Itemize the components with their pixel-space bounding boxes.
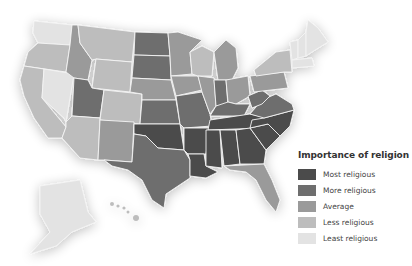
state-VT bbox=[290, 40, 298, 60]
legend-title: Importance of religion bbox=[298, 150, 412, 160]
state-FL bbox=[224, 164, 280, 212]
state-NY bbox=[254, 50, 292, 76]
legend-item-average: Average bbox=[298, 198, 412, 214]
legend-swatch bbox=[298, 185, 316, 196]
legend-item-most: Most religious bbox=[298, 166, 412, 182]
legend-label: Less religious bbox=[323, 218, 374, 227]
hawaii-island bbox=[116, 204, 119, 207]
legend-label: Average bbox=[323, 202, 354, 211]
state-AK bbox=[30, 180, 96, 254]
state-NM bbox=[98, 120, 134, 162]
state-CO bbox=[100, 90, 142, 124]
legend-swatch bbox=[298, 201, 316, 212]
state-WA bbox=[33, 21, 72, 45]
state-ME bbox=[306, 20, 328, 56]
legend-label: Most religious bbox=[323, 170, 375, 179]
state-WY bbox=[92, 59, 132, 92]
state-MI bbox=[214, 40, 238, 80]
legend-swatch bbox=[298, 233, 316, 244]
hawaii-island bbox=[110, 202, 114, 206]
legend-swatch bbox=[298, 217, 316, 228]
state-IN bbox=[214, 80, 228, 106]
state-NH bbox=[298, 32, 306, 58]
state-OH bbox=[226, 76, 250, 104]
state-AZ bbox=[62, 116, 100, 160]
legend: Importance of religion Most religious Mo… bbox=[298, 150, 412, 246]
state-SD bbox=[132, 55, 171, 80]
state-MA bbox=[292, 58, 314, 68]
legend-label: Least religious bbox=[323, 234, 377, 243]
hawaii-island bbox=[127, 211, 130, 214]
legend-label: More religious bbox=[323, 186, 376, 195]
hawaii-island bbox=[122, 206, 125, 209]
state-ND bbox=[134, 32, 170, 56]
state-HI bbox=[110, 202, 139, 221]
legend-item-more: More religious bbox=[298, 182, 412, 198]
legend-swatch bbox=[298, 169, 316, 180]
state-KS bbox=[140, 100, 180, 124]
state-MS bbox=[206, 130, 222, 168]
legend-item-least: Least religious bbox=[298, 230, 412, 246]
hawaii-island bbox=[133, 215, 139, 221]
state-WI bbox=[190, 46, 214, 76]
legend-item-less: Less religious bbox=[298, 214, 412, 230]
